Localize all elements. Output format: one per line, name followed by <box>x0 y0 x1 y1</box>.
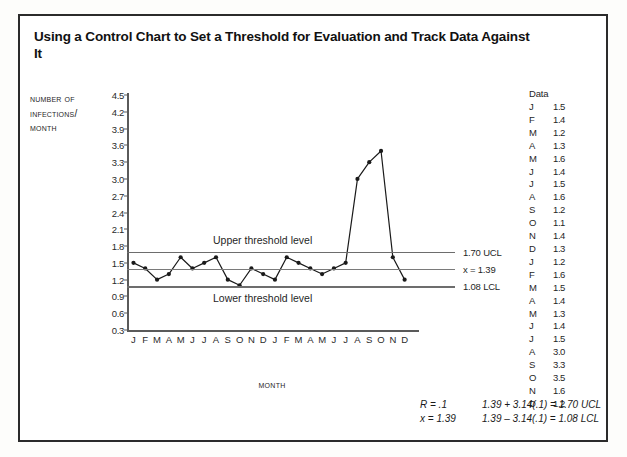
data-point <box>226 278 230 282</box>
x-tick-label: M <box>295 334 303 345</box>
y-axis-title-line-1: Number of <box>30 92 100 107</box>
y-tick-label: 2.7 <box>98 190 124 201</box>
formula-ucl: 1.39 + 3.14(.1) = 1.70 UCL <box>482 398 601 412</box>
data-table-row: J1.5 <box>529 102 591 115</box>
y-axis-title-line-2: Infections/ <box>30 107 100 122</box>
data-row-month: D <box>529 244 536 254</box>
data-row-value: 1.5 <box>553 179 565 189</box>
formula-mean: x = 1.39 <box>420 412 482 426</box>
data-row-value: 1.3 <box>553 244 565 254</box>
x-tick-label: M <box>177 334 185 345</box>
data-row-value: 1.6 <box>553 386 565 396</box>
y-tick-label: 4.5 <box>98 90 124 101</box>
data-table-row: J1.2 <box>529 257 591 270</box>
data-row-value: 1.5 <box>553 334 565 344</box>
x-tick-label: S <box>366 334 372 345</box>
data-row-month: O <box>529 373 536 383</box>
data-row-month: F <box>529 115 535 125</box>
control-limit-formulas: R = .11.39 + 3.14(.1) = 1.70 UCL x = 1.3… <box>420 398 601 426</box>
y-axis-title: Number of Infections/ Month <box>30 92 100 136</box>
x-axis-tick-labels: JFMAMJJASONDJFMAMJJASOND <box>127 334 417 350</box>
y-tick-label: 1.5 <box>98 257 124 268</box>
x-tick-label: J <box>202 334 207 345</box>
data-row-month: M <box>529 128 537 138</box>
data-row-month: J <box>529 321 534 331</box>
x-tick-label: N <box>248 334 255 345</box>
data-row-month: A <box>529 347 535 357</box>
x-tick-label: A <box>354 334 360 345</box>
data-point <box>403 278 407 282</box>
data-row-value: 1.2 <box>553 205 565 215</box>
data-table-row: M1.5 <box>529 283 591 296</box>
x-tick-label: J <box>332 334 337 345</box>
reference-line-label-mean: x = 1.39 <box>463 264 495 275</box>
data-row-month: J <box>529 167 534 177</box>
x-tick-label: N <box>389 334 396 345</box>
x-tick-label: S <box>225 334 231 345</box>
data-row-month: J <box>529 257 534 267</box>
data-table-rows: J1.5F1.4M1.2A1.3M1.6J1.4J1.5A1.6S1.2O1.1… <box>529 102 591 412</box>
data-row-value: 1.1 <box>553 218 565 228</box>
data-row-month: A <box>529 141 535 151</box>
x-tick-label: J <box>190 334 195 345</box>
control-chart-figure: Using a Control Chart to Set a Threshold… <box>0 0 627 457</box>
formula-range: R = .1 <box>420 398 482 412</box>
y-tick-label: 0.6 <box>98 308 124 319</box>
data-point <box>296 261 300 265</box>
data-row-value: 1.6 <box>553 270 565 280</box>
data-row-month: O <box>529 218 536 228</box>
data-row-value: 1.4 <box>553 167 565 177</box>
annotation-lower-threshold: Lower threshold level <box>213 292 312 304</box>
x-tick-label: A <box>166 334 172 345</box>
data-row-value: 1.2 <box>553 128 565 138</box>
y-axis-title-line-3: Month <box>30 121 100 136</box>
x-tick-label: O <box>377 334 384 345</box>
data-point <box>131 261 135 265</box>
data-point <box>391 255 395 259</box>
data-row-month: A <box>529 296 535 306</box>
y-tick-label: 0.3 <box>98 325 124 336</box>
y-tick-label: 2.4 <box>98 207 124 218</box>
x-tick-label: F <box>284 334 290 345</box>
annotation-upper-threshold: Upper threshold level <box>213 234 312 246</box>
data-row-value: 3.3 <box>553 360 565 370</box>
data-row-value: 1.4 <box>553 321 565 331</box>
data-row-month: J <box>529 102 534 112</box>
x-tick-label: M <box>153 334 161 345</box>
data-table-row: F1.4 <box>529 115 591 128</box>
data-point <box>179 255 183 259</box>
data-row-month: M <box>529 283 537 293</box>
data-table-row: M1.6 <box>529 154 591 167</box>
data-row-month: N <box>529 386 536 396</box>
data-point <box>273 278 277 282</box>
y-tick-label: 1.8 <box>98 241 124 252</box>
x-tick-label: F <box>142 334 148 345</box>
formula-line-1: R = .11.39 + 3.14(.1) = 1.70 UCL <box>420 398 601 412</box>
data-row-month: A <box>529 192 535 202</box>
data-point <box>344 261 348 265</box>
data-row-value: 1.2 <box>553 257 565 267</box>
y-tick-label: 1.2 <box>98 274 124 285</box>
data-row-month: J <box>529 179 534 189</box>
data-table-row: N1.6 <box>529 386 591 399</box>
data-row-value: 1.5 <box>553 283 565 293</box>
data-point <box>167 272 171 276</box>
reference-line-label-ucl: 1.70 UCL <box>463 246 502 257</box>
x-tick-label: A <box>213 334 219 345</box>
data-point <box>285 255 289 259</box>
data-row-value: 1.4 <box>553 115 565 125</box>
data-row-month: S <box>529 360 535 370</box>
data-row-month: F <box>529 270 535 280</box>
reference-line-lcl <box>127 286 455 287</box>
data-row-month: J <box>529 334 534 344</box>
data-row-value: 1.4 <box>553 296 565 306</box>
data-row-month: M <box>529 154 537 164</box>
x-tick-label: D <box>260 334 267 345</box>
data-table-row: D1.3 <box>529 244 591 257</box>
reference-line-ucl <box>127 252 455 253</box>
x-tick-label: J <box>131 334 136 345</box>
data-table-row: F1.6 <box>529 270 591 283</box>
x-axis-line <box>127 330 419 332</box>
x-tick-label: O <box>236 334 243 345</box>
data-row-month: S <box>529 205 535 215</box>
